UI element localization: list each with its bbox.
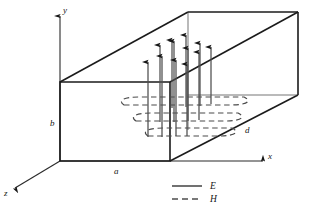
axes-group [15,16,263,188]
waveguide-field-diagram: y x z b a d E H [0,0,309,213]
diagram-canvas: y x z b a d E H [0,0,309,213]
y-axis-label: y [62,5,67,15]
legend: E H [172,181,218,204]
dimension-label-b: b [50,118,55,128]
legend-label-e: E [209,181,216,191]
box-edge-top-right-receding [170,12,298,82]
z-axis [15,161,60,188]
z-axis-label: z [3,188,8,198]
cavity-box-thin-lines [188,12,298,130]
h-field-loop [121,97,248,105]
x-axis-label: x [267,151,272,161]
dimension-label-d: d [245,125,250,135]
box-edge-top-left-receding [60,12,188,82]
cavity-box [60,12,298,161]
dimension-label-a: a [114,166,119,176]
legend-label-h: H [209,194,218,204]
box-front-face [60,82,170,161]
